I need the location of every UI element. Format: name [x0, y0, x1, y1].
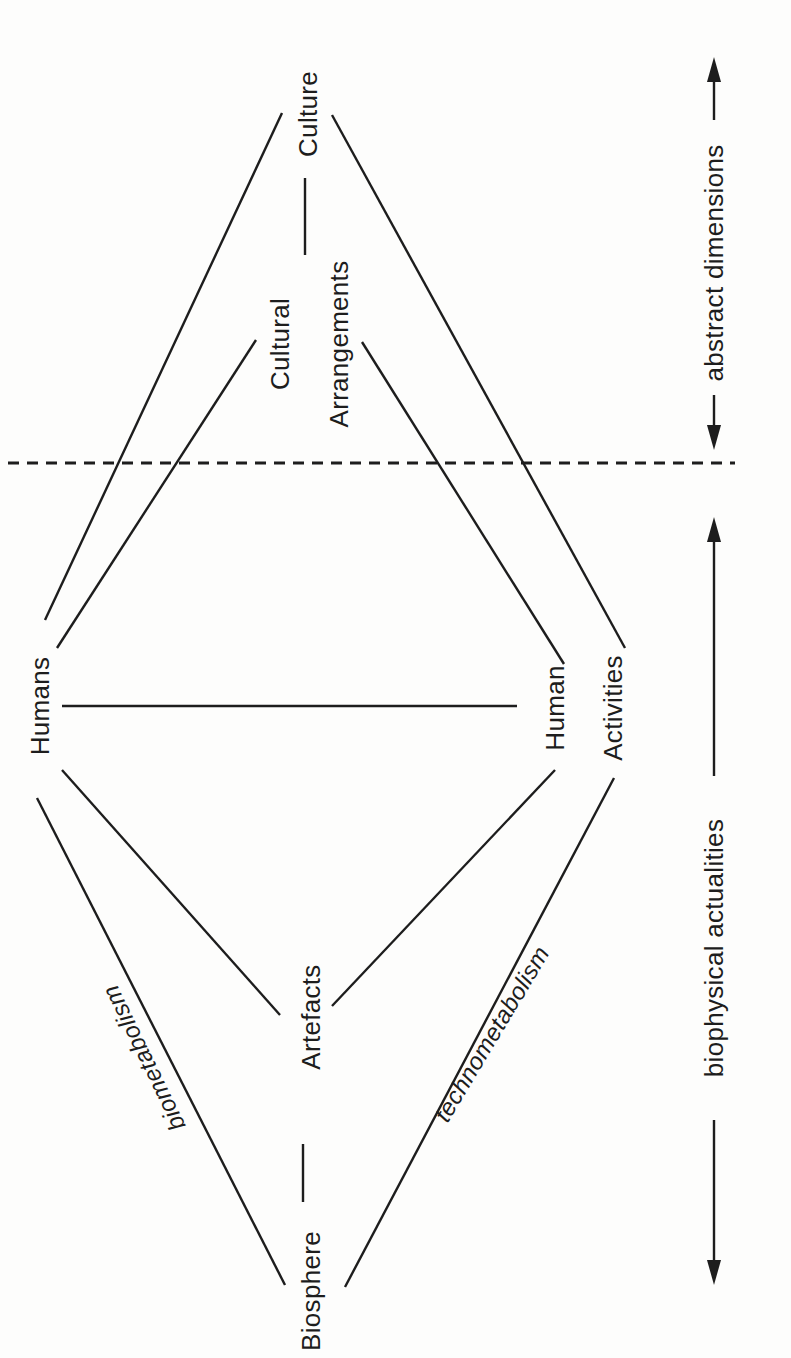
edge-human-activities-culture [332, 115, 625, 648]
node-human-activities-line2: Activities [584, 655, 642, 761]
edge-humans-cultural-arrangements [57, 340, 256, 648]
node-artefacts: Artefacts [296, 964, 327, 1069]
node-human-activities-line1: Human [526, 655, 584, 761]
diagram-rotated-canvas: Humans Biosphere Artefacts Human Activit… [0, 0, 791, 1358]
edge-humans-culture [45, 113, 282, 620]
node-cultural-arrangements-line1: Cultural [251, 261, 310, 428]
axis-label-abstract-dimensions: abstract dimensions [699, 145, 730, 382]
node-human-activities: Human Activities [526, 655, 642, 761]
edge-humans-artefacts [62, 770, 280, 1015]
arrowhead-biophysical-right [707, 517, 721, 542]
arrowhead-biophysical-left [707, 1260, 721, 1285]
node-cultural-arrangements: Cultural Arrangements [251, 261, 369, 428]
node-culture: Culture [293, 71, 324, 157]
arrowhead-abstract-right [707, 57, 721, 82]
node-humans: Humans [25, 657, 56, 756]
node-cultural-arrangements-line2: Arrangements [310, 261, 369, 428]
edge-human-activities-cultural-arrangements [362, 342, 564, 664]
diagram-line-work [0, 0, 791, 1358]
arrowhead-abstract-left [707, 425, 721, 450]
scanned-figure-page: Humans Biosphere Artefacts Human Activit… [0, 0, 791, 1358]
node-biosphere: Biosphere [296, 1231, 327, 1351]
edge-biosphere-humans-biometabolism [37, 798, 285, 1285]
axis-label-biophysical-actualities: biophysical actualities [699, 819, 730, 1077]
